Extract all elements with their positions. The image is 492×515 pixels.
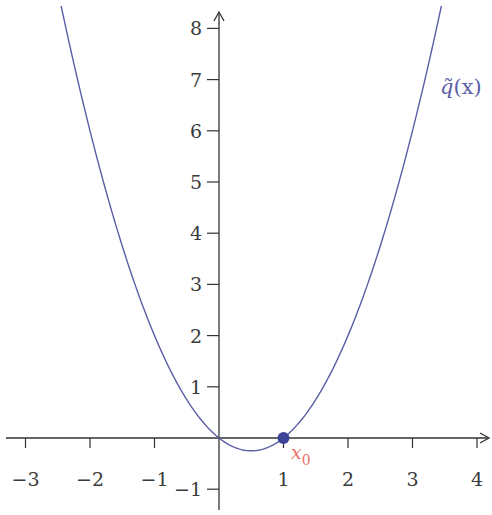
- curve-label: q̃(x): [440, 75, 482, 99]
- x-tick-label: −1: [140, 468, 168, 490]
- x-tick-label: 3: [406, 468, 418, 490]
- y-tick-label: 6: [190, 120, 202, 142]
- curve-q-tilde: [51, 0, 451, 451]
- x-tick-label: −2: [76, 468, 104, 490]
- axes: [6, 12, 489, 510]
- y-tick-label: 8: [190, 17, 202, 39]
- x-tick-label: 1: [277, 468, 289, 490]
- x-tick-label: 4: [471, 468, 483, 490]
- y-tick-label: 7: [190, 69, 202, 91]
- y-tick-label: 2: [190, 325, 202, 347]
- x-tick-label: 2: [342, 468, 354, 490]
- y-tick-label: −1: [174, 478, 202, 500]
- point-label-x0: x0: [291, 441, 311, 468]
- root-point-marker: [278, 432, 290, 444]
- x-tick-label: −3: [11, 468, 39, 490]
- y-tick-label: 4: [190, 222, 202, 244]
- y-tick-label: 3: [190, 273, 202, 295]
- y-tick-label: 5: [190, 171, 202, 193]
- curve-path: [51, 0, 451, 451]
- function-plot: −3−2−11234−112345678 q̃(x) x0: [0, 0, 492, 515]
- root-point-x0: [278, 432, 290, 444]
- ticks: −3−2−11234−112345678: [11, 17, 483, 500]
- y-tick-label: 1: [190, 376, 202, 398]
